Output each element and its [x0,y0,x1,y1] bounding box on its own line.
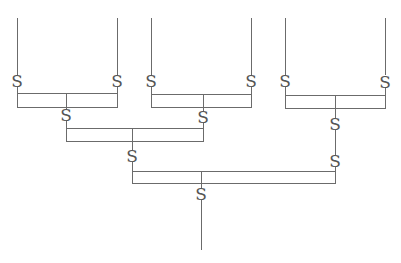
s-hook-icon: S [11,71,23,91]
s-hook-symbols: S S S S S S S S S S S S [11,71,391,204]
s-hook-icon: S [60,105,72,125]
s-hook-icon: S [111,71,123,91]
s-hook-icon: S [379,72,391,92]
s-hook-icon: S [145,71,157,91]
level-3-bracket [133,162,336,188]
s-hook-icon: S [197,107,209,127]
s-hook-icon: S [195,184,207,204]
bracket-tree-diagram: S S S S S S S S S S S S [0,0,401,263]
s-hook-icon: S [329,114,341,134]
s-hook-icon: S [126,146,138,166]
s-hook-icon: S [279,71,291,91]
s-hook-icon: S [329,151,341,171]
s-hook-icon: S [245,71,257,91]
leaf-lines [18,18,386,75]
